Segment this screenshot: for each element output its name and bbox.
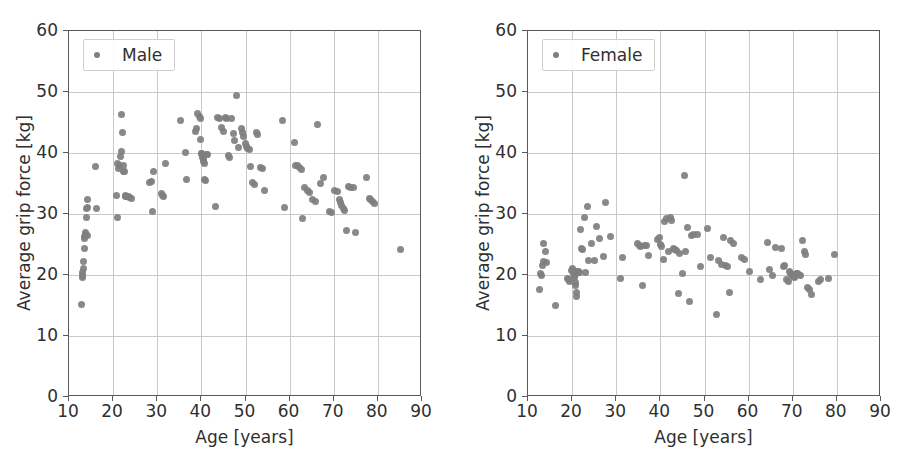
- panel-male: Male 102030405060708090 0102030405060 Ag…: [0, 0, 459, 464]
- scatter-point: [119, 129, 126, 136]
- figure-scatter-grip-force: Male 102030405060708090 0102030405060 Ag…: [0, 0, 918, 464]
- scatter-point: [80, 265, 87, 272]
- x-tick-label: 10: [57, 401, 79, 421]
- scatter-point: [202, 177, 209, 184]
- scatter-point: [93, 205, 100, 212]
- x-tick-label: 80: [366, 401, 388, 421]
- scatter-point: [573, 293, 580, 300]
- scatter-point: [298, 166, 305, 173]
- y-tick-label: 30: [495, 203, 517, 223]
- scatter-point: [639, 282, 646, 289]
- scatter-point: [182, 149, 189, 156]
- scatter-point: [682, 248, 689, 255]
- scatter-points-female: [528, 31, 879, 395]
- scatter-point: [543, 259, 550, 266]
- scatter-point: [246, 146, 253, 153]
- scatter-point: [299, 215, 306, 222]
- scatter-point: [726, 289, 733, 296]
- scatter-point: [352, 229, 359, 236]
- scatter-point: [681, 172, 688, 179]
- scatter-point: [306, 189, 313, 196]
- scatter-point: [778, 245, 785, 252]
- y-tick-label: 40: [36, 142, 58, 162]
- scatter-point: [92, 163, 99, 170]
- scatter-point: [314, 121, 321, 128]
- plot-area-female: Female: [527, 30, 880, 396]
- scatter-point: [686, 298, 693, 305]
- x-tick-label: 60: [737, 401, 759, 421]
- scatter-point: [397, 246, 404, 253]
- scatter-point: [251, 181, 258, 188]
- x-tick-label: 40: [649, 401, 671, 421]
- scatter-point: [160, 193, 167, 200]
- legend-label-female: Female: [581, 45, 642, 65]
- y-tick: [522, 152, 527, 153]
- scatter-point: [831, 251, 838, 258]
- scatter-point: [291, 139, 298, 146]
- scatter-point: [684, 224, 691, 231]
- y-tick: [63, 213, 68, 214]
- scatter-point: [162, 160, 169, 167]
- scatter-point: [675, 290, 682, 297]
- y-tick: [63, 274, 68, 275]
- scatter-point: [825, 275, 832, 282]
- scatter-point: [371, 200, 378, 207]
- scatter-point: [619, 254, 626, 261]
- scatter-point: [588, 240, 595, 247]
- scatter-point: [254, 131, 261, 138]
- scatter-point: [730, 240, 737, 247]
- scatter-point: [697, 263, 704, 270]
- scatter-point: [230, 130, 237, 137]
- scatter-point: [113, 192, 120, 199]
- scatter-point: [341, 207, 348, 214]
- scatter-point: [704, 225, 711, 232]
- scatter-point: [84, 196, 91, 203]
- scatter-point: [149, 208, 156, 215]
- scatter-point: [231, 137, 238, 144]
- scatter-point: [320, 174, 327, 181]
- y-tick: [63, 30, 68, 31]
- scatter-point: [581, 214, 588, 221]
- scatter-point: [81, 245, 88, 252]
- x-tick-label: 50: [234, 401, 256, 421]
- scatter-point: [577, 226, 584, 233]
- y-tick-label: 0: [506, 386, 517, 406]
- legend-marker-icon: [553, 52, 559, 58]
- y-axis-label-female: Average grip force [kg]: [473, 30, 495, 396]
- scatter-point: [572, 282, 579, 289]
- scatter-point: [235, 144, 242, 151]
- y-tick: [522, 274, 527, 275]
- y-tick: [522, 30, 527, 31]
- scatter-point: [579, 246, 586, 253]
- scatter-point: [713, 311, 720, 318]
- y-tick-label: 20: [36, 264, 58, 284]
- scatter-point: [724, 263, 731, 270]
- scatter-point: [281, 204, 288, 211]
- x-tick-label: 50: [693, 401, 715, 421]
- scatter-point: [261, 187, 268, 194]
- y-tick: [63, 396, 68, 397]
- scatter-point: [596, 235, 603, 242]
- scatter-point: [350, 184, 357, 191]
- scatter-points-male: [69, 31, 420, 395]
- y-tick-label: 0: [47, 386, 58, 406]
- scatter-point: [764, 239, 771, 246]
- y-tick: [63, 152, 68, 153]
- x-tick-label: 80: [825, 401, 847, 421]
- x-axis-label-male: Age [years]: [68, 427, 421, 447]
- scatter-point: [582, 269, 589, 276]
- y-tick-label: 40: [495, 142, 517, 162]
- y-tick-label: 60: [495, 20, 517, 40]
- scatter-point: [78, 301, 85, 308]
- scatter-point: [240, 133, 247, 140]
- x-tick-label: 40: [190, 401, 212, 421]
- scatter-point: [600, 253, 607, 260]
- x-tick-label: 70: [781, 401, 803, 421]
- y-tick-label: 20: [495, 264, 517, 284]
- scatter-point: [720, 234, 727, 241]
- x-tick-label: 90: [869, 401, 891, 421]
- scatter-point: [312, 198, 319, 205]
- scatter-point: [183, 176, 190, 183]
- y-tick-label: 10: [36, 325, 58, 345]
- legend-label-male: Male: [122, 45, 162, 65]
